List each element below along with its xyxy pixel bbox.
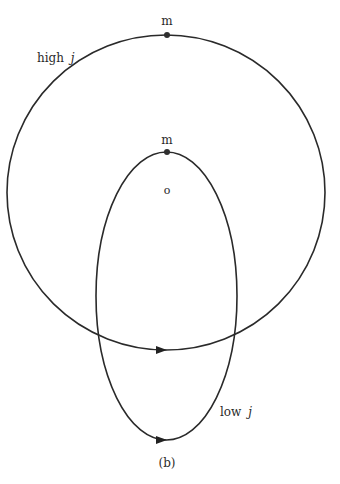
apocenter-high-j-dot bbox=[164, 32, 170, 38]
low-j-label-word: low bbox=[220, 405, 242, 419]
apocenter-low-j-label: m bbox=[161, 133, 173, 147]
apocenter-low-j-dot bbox=[164, 149, 170, 155]
high-j-direction-arrow-icon bbox=[156, 346, 167, 354]
low-j-direction-arrow-icon bbox=[156, 436, 167, 444]
figure-caption: (b) bbox=[158, 456, 175, 470]
center-origin-label: o bbox=[164, 184, 171, 197]
high-j-label: high j bbox=[37, 51, 75, 65]
low-j-label-var: j bbox=[245, 405, 252, 419]
apocenter-high-j-label: m bbox=[161, 14, 173, 28]
high-j-label-var: j bbox=[68, 51, 75, 65]
low-j-label: low j bbox=[220, 405, 252, 419]
high-j-label-word: high bbox=[37, 51, 64, 65]
orbit-diagram: m m o high j low j (b) bbox=[0, 0, 340, 484]
